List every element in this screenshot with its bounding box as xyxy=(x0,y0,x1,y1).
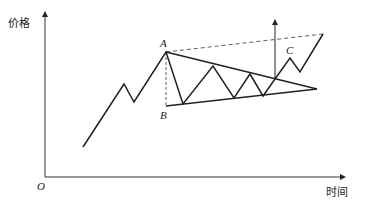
x-axis-label: 时间 xyxy=(326,183,348,199)
point-a-label: A xyxy=(160,37,167,49)
point-b-label: B xyxy=(160,109,167,121)
dashed-upper-projection xyxy=(166,34,323,52)
y-axis-label: 价格 xyxy=(8,14,30,30)
origin-label: O xyxy=(37,180,45,192)
point-c-label: C xyxy=(286,44,293,56)
upper-trendline xyxy=(166,52,317,89)
triangle-chart xyxy=(0,0,367,209)
